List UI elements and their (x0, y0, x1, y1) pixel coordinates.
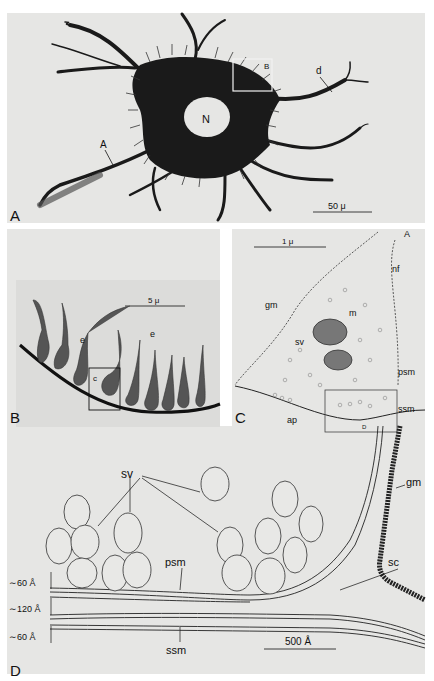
label-d-ssm: ssm (166, 644, 186, 656)
vesicles-d (46, 467, 323, 594)
label-ap: ap (287, 415, 297, 425)
label-c-ssm: ssm (398, 404, 415, 414)
dimension-presynaptic: ∼60 Å (9, 578, 36, 588)
figure-drawing: N B d A 50 μ A 5 μ e e c B 1 μ A nf gm m (0, 0, 434, 681)
scale-label-a: 50 μ (328, 201, 346, 211)
label-endings-1: e (80, 335, 85, 345)
panel-letter-b: B (10, 409, 20, 426)
label-c-gm: gm (265, 300, 278, 310)
scale-label-c: 1 μ (282, 237, 294, 246)
label-inset-d: D (362, 424, 367, 430)
label-nf: nf (392, 264, 400, 274)
terminal-outline (235, 232, 398, 385)
mitochondrion-1 (313, 319, 347, 345)
mitochondrion-2 (324, 350, 352, 370)
scale-label-b: 5 μ (148, 296, 160, 305)
label-inset-c: c (93, 374, 97, 383)
label-c-axon: A (404, 229, 410, 239)
label-c-psm: psm (398, 367, 415, 377)
label-d-gm: gm (406, 476, 421, 488)
label-m: m (349, 308, 357, 318)
label-nucleus: N (202, 113, 210, 125)
panel-letter-a: A (10, 207, 20, 224)
panel-letter-c: C (235, 409, 246, 426)
label-d-sc: sc (388, 556, 400, 568)
label-endings-2: e (150, 329, 155, 339)
panel-letter-d: D (10, 662, 21, 679)
label-d-sv: sv (121, 467, 133, 481)
label-d-psm: psm (165, 556, 186, 568)
label-inset-b: B (264, 62, 269, 71)
label-c-sv: sv (295, 337, 305, 347)
label-axon: A (100, 139, 107, 150)
dimension-cleft: ∼120 Å (9, 604, 41, 614)
glial-sheath (380, 426, 426, 600)
scale-label-d: 500 Å (285, 635, 311, 647)
label-dendrite: d (316, 65, 322, 76)
dimension-subsynaptic: ∼60 Å (9, 632, 36, 642)
